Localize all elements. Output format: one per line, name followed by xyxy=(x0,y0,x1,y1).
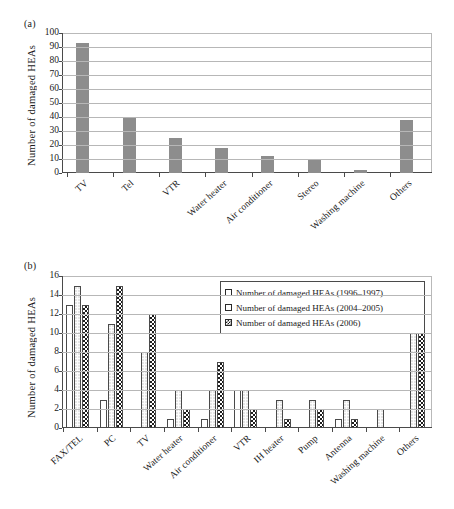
panel-b-y-tick-label: 16 xyxy=(50,271,60,281)
panel-a-y-tick-label: 30 xyxy=(50,126,60,136)
panel-a-gridline xyxy=(62,47,432,48)
bar xyxy=(377,409,384,428)
legend-item: Number of damaged HEAs (2006) xyxy=(225,315,419,330)
panel-a-gridline xyxy=(62,145,432,146)
panel-b-y-tick-label: 14 xyxy=(50,290,60,300)
panel-a-x-tick-mark xyxy=(205,173,206,177)
bar xyxy=(215,148,228,173)
bar xyxy=(250,409,257,428)
bar xyxy=(116,286,123,429)
legend-label: Number of damaged HEAs (2006) xyxy=(236,318,360,328)
panel-b-label: (b) xyxy=(24,260,36,271)
panel-a-gridline xyxy=(62,103,432,104)
legend-swatch-icon xyxy=(225,319,232,326)
panel-a-y-tick-mark xyxy=(59,33,62,34)
bar xyxy=(74,286,81,429)
legend-item: Number of damaged HEAs (2004–2005) xyxy=(225,300,419,315)
panel-a-y-tick-label: 60 xyxy=(50,84,60,94)
x-tick-label: Antenna xyxy=(287,433,353,494)
panel-a-y-tick-label: 20 xyxy=(50,140,60,150)
panel-a-y-tick-label: 80 xyxy=(50,56,60,66)
panel-a-y-tick-label: 100 xyxy=(45,28,59,38)
panel-a-y-tick-label: 70 xyxy=(50,70,60,80)
panel-a-gridline xyxy=(62,61,432,62)
panel-a-x-tick-mark xyxy=(390,173,391,177)
panel-b-x-tick-mark xyxy=(130,428,131,432)
panel-b-y-tick-mark xyxy=(59,390,62,391)
bar xyxy=(343,400,350,429)
bar xyxy=(167,419,174,429)
panel-a-gridline xyxy=(62,117,432,118)
x-tick-label: Water heater xyxy=(119,433,185,494)
x-tick-label: Others xyxy=(354,433,420,494)
panel-b-gridline xyxy=(62,390,432,391)
bar xyxy=(76,43,89,173)
panel-a-x-tick-mark xyxy=(344,173,345,177)
panel-b-y-tick-mark xyxy=(59,295,62,296)
panel-a-y-tick-mark xyxy=(59,75,62,76)
panel-a-gridline xyxy=(62,131,432,132)
panel-b-x-tick-mark xyxy=(399,428,400,432)
panel-b-y-tick-mark xyxy=(59,352,62,353)
panel-b-y-tick-mark xyxy=(59,333,62,334)
x-tick-label: FAX/TEL xyxy=(18,433,84,494)
bar xyxy=(317,409,324,428)
panel-b-x-tick-mark xyxy=(164,428,165,432)
panel-a-y-tick-mark xyxy=(59,159,62,160)
panel-a-x-tick-mark xyxy=(113,173,114,177)
panel-a-y-tick-mark xyxy=(59,131,62,132)
panel-a-x-tick-mark xyxy=(67,173,68,177)
panel-b-gridline xyxy=(62,371,432,372)
bar xyxy=(308,160,321,173)
x-tick-label: IH heater xyxy=(220,433,286,494)
panel-a-label: (a) xyxy=(24,18,36,29)
panel-a-x-tick-mark xyxy=(252,173,253,177)
panel-a-y-tick-mark xyxy=(59,173,62,174)
bar xyxy=(351,419,358,429)
bar xyxy=(418,333,425,428)
panel-b-x-tick-mark xyxy=(265,428,266,432)
panel-b-y-tick-mark xyxy=(59,371,62,372)
panel-b-x-tick-mark xyxy=(366,428,367,432)
bar xyxy=(183,409,190,428)
panel-a-gridline xyxy=(62,75,432,76)
panel-b-y-tick-label: 12 xyxy=(50,309,60,319)
legend-swatch-icon xyxy=(225,304,232,311)
bar xyxy=(284,419,291,429)
legend-label: Number of damaged HEAs (2004–2005) xyxy=(236,303,383,313)
panel-b-gridline xyxy=(62,295,432,296)
panel-b-x-tick-mark xyxy=(198,428,199,432)
panel-b-legend: Number of damaged HEAs (1996–1997)Number… xyxy=(220,281,425,334)
bar xyxy=(201,419,208,429)
panel-b-x-tick-mark xyxy=(97,428,98,432)
bar xyxy=(169,138,182,173)
bar xyxy=(400,120,413,173)
bar xyxy=(354,170,367,173)
panel-b-y-axis-label: Number of damaged HEAs xyxy=(26,278,37,418)
legend-label: Number of damaged HEAs (1996–1997) xyxy=(236,288,383,298)
panel-b-x-tick-mark xyxy=(332,428,333,432)
x-tick-label: Pump xyxy=(254,433,320,494)
panel-b-gridline xyxy=(62,333,432,334)
panel-a-y-tick-mark xyxy=(59,61,62,62)
panel-a-y-axis-label: Number of damaged HEAs xyxy=(26,36,37,166)
panel-b-y-tick-mark xyxy=(59,314,62,315)
panel-b-y-tick-label: 10 xyxy=(50,328,60,338)
bar xyxy=(100,400,107,429)
bar xyxy=(309,400,316,429)
panel-b-x-tick-mark xyxy=(231,428,232,432)
panel-b-gridline xyxy=(62,314,432,315)
panel-a-y-tick-mark xyxy=(59,145,62,146)
panel-a-y-tick-mark xyxy=(59,89,62,90)
panel-a-y-tick-label: 10 xyxy=(50,154,60,164)
bar xyxy=(276,400,283,429)
x-tick-label: Air conditioner xyxy=(153,433,219,494)
panel-a-gridline xyxy=(62,159,432,160)
panel-a-x-tick-mark xyxy=(159,173,160,177)
panel-a-x-tick-mark xyxy=(298,173,299,177)
x-tick-label: VTR xyxy=(186,433,252,494)
panel-b-y-tick-mark xyxy=(59,276,62,277)
x-tick-label: PC xyxy=(52,433,118,494)
panel-b-gridline xyxy=(62,352,432,353)
x-tick-label: Washing machine xyxy=(321,433,387,494)
